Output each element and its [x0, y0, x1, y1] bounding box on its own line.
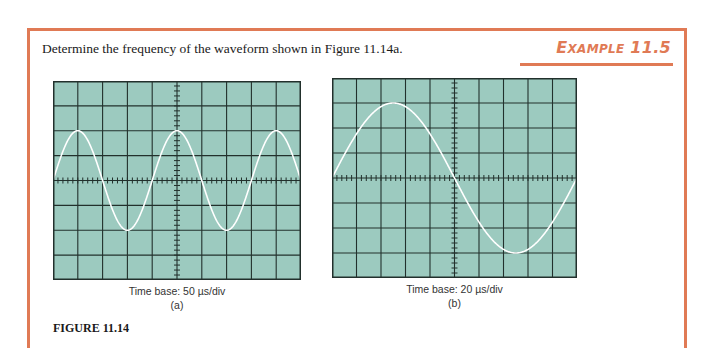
example-heading-underline	[520, 63, 673, 66]
scope-screen-a	[53, 81, 301, 280]
example-heading: EXAMPLE 11.5	[556, 38, 671, 57]
example-heading-number: 11.5	[630, 38, 671, 57]
scope-screen-b	[332, 78, 577, 278]
oscilloscope-display-b	[332, 78, 577, 278]
problem-prompt: Determine the frequency of the waveform …	[42, 41, 403, 57]
subfigure-label-b: (b)	[332, 297, 577, 309]
example-heading-first-letter: E	[556, 38, 567, 57]
example-heading-word: XAMPLE	[568, 42, 625, 56]
subfigure-label-a: (a)	[53, 299, 301, 311]
timebase-caption-a: Time base: 50 µs/div	[53, 285, 301, 297]
figure-label: FIGURE 11.14	[53, 321, 129, 336]
timebase-caption-b: Time base: 20 µs/div	[332, 283, 577, 295]
oscilloscope-display-a	[53, 81, 301, 280]
